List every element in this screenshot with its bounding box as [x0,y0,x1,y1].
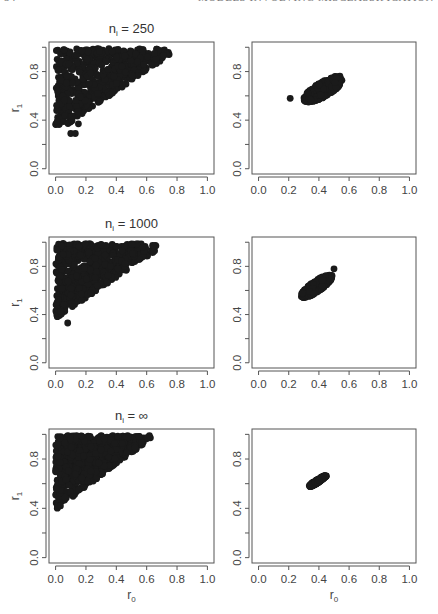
data-point [65,468,72,475]
x-tick-label: 0.6 [139,573,155,585]
data-point [316,477,323,484]
x-tick-label: 0.4 [311,573,328,585]
data-point [55,67,62,74]
data-point [299,290,306,297]
data-point [129,241,136,248]
y-tick-label: 0.0 [231,161,243,177]
scatter-figure: 0.00.20.40.60.81.00.00.40.8r1ni = 2500.0… [0,0,438,614]
x-tick-label: 0.4 [311,378,328,390]
data-point [160,52,167,59]
data-point [332,79,339,86]
data-point [118,63,125,70]
y-axis: 0.00.40.8 [28,242,46,371]
data-point [60,251,67,258]
data-point [138,439,145,446]
y-tick-label: 0.0 [28,550,40,566]
y-axis: 0.00.40.8 [231,47,249,176]
y-tick-label: 0.4 [28,500,40,517]
data-point [75,243,82,250]
x-tick-label: 0.8 [371,184,387,196]
data-point [304,89,311,96]
data-point [85,49,92,56]
data-point [82,240,89,247]
data-point [77,252,84,259]
y-tick-label: 0.0 [231,355,243,371]
data-point [81,265,88,272]
data-point [87,468,94,475]
x-tick-label: 0.2 [281,573,297,585]
data-point [316,82,323,89]
data-point [78,291,85,298]
data-point [140,61,147,68]
scatter-points [298,265,337,301]
y-tick-label: 0.4 [28,306,40,323]
data-point [63,476,70,483]
x-tick-label: 0.2 [78,378,94,390]
data-point [84,56,91,63]
data-point [54,88,61,95]
data-point [119,248,126,255]
x-tick-label: 0.6 [341,184,357,196]
x-tick-label: 1.0 [199,573,215,585]
data-point [53,247,60,254]
data-point [68,292,75,299]
x-tick-label: 0.8 [371,378,387,390]
y-tick-label: 0.8 [231,258,243,274]
data-point [57,503,64,510]
data-point [101,436,108,443]
data-point [119,82,126,89]
x-tick-label: 1.0 [199,184,215,196]
data-point [122,260,129,267]
data-point [132,445,139,452]
plot-frame [252,429,416,563]
y-tick-label: 0.8 [231,451,243,467]
data-point [87,70,94,77]
data-point [113,80,120,87]
x-tick-label: 0.2 [78,573,94,585]
y-axis: 0.00.40.8 [231,434,249,565]
data-point [68,285,75,292]
data-point [107,263,114,270]
data-point [80,453,87,460]
data-point [64,72,71,79]
y-tick-label: 0.8 [28,64,40,80]
data-point [66,61,73,68]
scatter-points [306,472,330,490]
data-point [99,471,106,478]
x-tick-label: 0.8 [371,573,387,585]
x-tick-label: 0.4 [108,573,125,585]
data-point [78,297,85,304]
data-point [67,435,74,442]
data-point [59,285,66,292]
data-point [105,66,112,73]
x-tick-label: 0.2 [78,184,94,196]
data-point [307,96,314,103]
data-point [55,278,62,285]
data-point [96,48,103,55]
y-tick-label: 0.4 [231,306,243,323]
data-point [113,54,120,61]
data-point [69,303,76,310]
x-axis: 0.00.20.40.60.81.0 [251,371,418,390]
data-point [63,80,70,87]
x-tick-label: 0.8 [169,184,185,196]
y-tick-label: 0.0 [231,550,243,566]
x-tick-label: 1.0 [401,378,417,390]
data-point [112,455,119,462]
data-point [150,243,157,250]
data-point [64,320,71,327]
data-point [78,433,85,440]
data-point [57,459,64,466]
data-point [53,102,60,109]
data-point [98,446,105,453]
y-tick-label: 0.4 [231,112,243,129]
data-point [57,435,64,442]
data-point [287,95,294,102]
data-point [122,53,129,60]
data-point [75,120,82,127]
data-point [119,440,126,447]
y-tick-label: 0.4 [231,500,243,517]
data-point [115,265,122,272]
scatter-points [52,432,154,511]
data-point [71,261,78,268]
